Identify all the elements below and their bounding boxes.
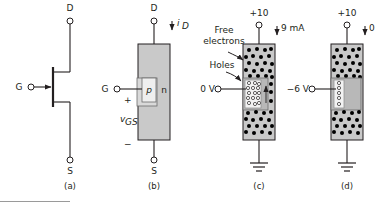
source-terminal-node xyxy=(67,157,73,163)
panel-b-plus-sign: + xyxy=(124,95,132,105)
panel-a-drain-label: D xyxy=(67,3,74,13)
panel-d-caption: (d) xyxy=(341,181,353,191)
bottom-rule xyxy=(0,201,70,202)
panel-a-gate-lead xyxy=(28,84,51,90)
gate-terminal-node xyxy=(28,84,34,90)
panel-c-caption: (c) xyxy=(253,181,264,191)
panel-b-p-region-label: p xyxy=(145,85,152,95)
panel-c-gate-terminal-node xyxy=(215,86,221,92)
panel-b: D G S (b) p n i D v GS + − xyxy=(102,3,189,191)
panel-d-current-label: 0 xyxy=(369,23,375,33)
jfet-figure: D G S (a) D G S xyxy=(0,0,387,202)
panel-b-drain-terminal-node xyxy=(151,18,157,24)
panel-b-drain-current-label: i xyxy=(177,18,180,28)
panel-b-source-terminal-node xyxy=(151,157,157,163)
panel-b-drain-label: D xyxy=(151,3,158,13)
panel-d-supply-terminal-node xyxy=(344,22,350,28)
panel-b-drain-current-subscript: D xyxy=(182,21,189,31)
panel-a-source-lead xyxy=(53,102,73,163)
panel-a-gate-label: G xyxy=(16,82,23,92)
panel-c-channel-electrons xyxy=(269,82,273,103)
panel-c-free-electrons-label-line2: electrons xyxy=(203,36,245,46)
panel-c-free-electrons-label-line1: Free xyxy=(214,25,234,35)
panel-d-gate-terminal-node xyxy=(309,86,315,92)
panel-a: D G S (a) xyxy=(16,3,76,191)
panel-c-supply-label: +10 xyxy=(250,8,269,18)
panel-c-gate-voltage-label: 0 V xyxy=(200,84,216,94)
panel-a-source-label: S xyxy=(67,166,73,176)
drain-terminal-node xyxy=(67,18,73,24)
panel-c: +10 9 mA 0 V Free electrons Holes (c) xyxy=(200,8,305,191)
panel-b-gate-terminal-node xyxy=(114,86,120,92)
panel-d-ground-icon xyxy=(338,163,356,171)
panel-c-free-electrons-pointer xyxy=(228,52,243,60)
figure-canvas: D G S (a) D G S xyxy=(0,0,387,202)
panel-b-vgs-subscript: GS xyxy=(125,117,138,127)
panel-c-holes-pointer xyxy=(226,72,241,81)
panel-b-caption: (b) xyxy=(148,181,160,191)
panel-c-ground-icon xyxy=(250,163,268,171)
panel-d: +10 0 −6 V (d) xyxy=(287,8,375,191)
panel-c-holes-label: Holes xyxy=(209,60,234,70)
panel-c-supply-terminal-node xyxy=(256,22,262,28)
panel-b-gate-label: G xyxy=(102,84,109,94)
panel-a-caption: (a) xyxy=(64,181,76,191)
panel-b-source-label: S xyxy=(151,166,157,176)
panel-d-gate-voltage-label: −6 V xyxy=(287,84,310,94)
panel-c-current-label: 9 mA xyxy=(281,23,305,33)
panel-b-n-region-label: n xyxy=(161,85,167,95)
panel-d-supply-label: +10 xyxy=(338,8,357,18)
panel-b-minus-sign: − xyxy=(124,139,132,149)
panel-a-drain-lead xyxy=(53,18,73,72)
